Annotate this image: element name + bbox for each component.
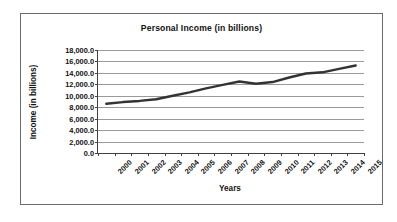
x-axis-tick-label: 2008: [249, 158, 267, 176]
x-axis-tick-label: 2010: [282, 158, 300, 176]
y-axis-tick-label: 2,000.0: [69, 137, 94, 146]
x-axis-tick-mark: [131, 153, 132, 156]
line-series: [98, 50, 364, 153]
x-axis-tick-label: 2001: [133, 158, 151, 176]
x-axis-tick-label: 2014: [349, 158, 367, 176]
y-axis-tick-label: 14,000.0: [65, 68, 94, 77]
x-axis-tick-mark: [214, 153, 215, 156]
x-axis-tick-mark: [231, 153, 232, 156]
y-axis-tick-label: 4,000.0: [69, 126, 94, 135]
x-axis-tick-label: 2013: [332, 158, 350, 176]
plot-area: 0.02,000.04,000.06,000.08,000.010,000.01…: [97, 50, 364, 154]
x-axis-tick-mark: [198, 153, 199, 156]
x-axis-tick-mark: [248, 153, 249, 156]
y-axis-tick-label: 10,000.0: [65, 91, 94, 100]
x-axis-tick-mark: [298, 153, 299, 156]
x-axis-tick-mark: [264, 153, 265, 156]
x-axis-tick-label: 2005: [199, 158, 217, 176]
y-axis-title: Income (in billions): [29, 50, 41, 154]
y-axis-tick-label: 12,000.0: [65, 80, 94, 89]
x-axis-tick-label: 2003: [166, 158, 184, 176]
y-axis-tick-label: 18,000.0: [65, 46, 94, 55]
x-axis-tick-label: 2000: [116, 158, 134, 176]
x-axis-tick-mark: [181, 153, 182, 156]
x-axis-tick-label: 2006: [216, 158, 234, 176]
chart-title: Personal Income (in billions): [21, 23, 382, 33]
x-axis-tick-mark: [331, 153, 332, 156]
y-axis-tick-label: 16,000.0: [65, 57, 94, 66]
x-axis-tick-label: 2004: [183, 158, 201, 176]
x-axis-tick-mark: [115, 153, 116, 156]
x-axis-tick-mark: [314, 153, 315, 156]
x-axis-tick-mark: [347, 153, 348, 156]
x-axis-tick-mark: [364, 153, 365, 156]
series-polyline: [106, 65, 355, 103]
x-axis-tick-label: 2002: [149, 158, 167, 176]
x-axis-title: Years: [97, 184, 363, 193]
y-axis-tick-label: 0.0: [84, 149, 94, 158]
y-axis-tick-label: 6,000.0: [69, 114, 94, 123]
x-axis-tick-label: 2007: [233, 158, 251, 176]
x-axis-tick-label: 2012: [316, 158, 334, 176]
chart-frame: Personal Income (in billions) Income (in…: [20, 13, 383, 205]
x-axis-tick-mark: [165, 153, 166, 156]
x-axis-tick-label: 2015: [366, 158, 384, 176]
x-axis-tick-label: 2011: [299, 158, 317, 176]
x-axis-tick-mark: [281, 153, 282, 156]
y-axis-tick-label: 8,000.0: [69, 103, 94, 112]
x-axis-tick-mark: [148, 153, 149, 156]
x-axis-tick-mark: [98, 153, 99, 156]
x-axis-tick-label: 2009: [266, 158, 284, 176]
